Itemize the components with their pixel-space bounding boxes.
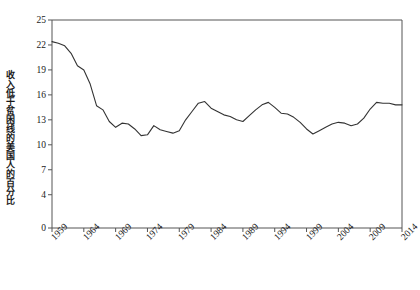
poverty-rate-series-line — [52, 42, 402, 136]
y-tick-label: 0 — [22, 223, 46, 233]
y-tick-label: 7 — [22, 165, 46, 175]
y-tick-label: 16 — [22, 90, 46, 100]
axes-group — [52, 20, 402, 228]
poverty-rate-line-chart: 收入低于贫困线的美国人的百分比 047101316192225 19591964… — [0, 0, 420, 290]
y-tick-label: 22 — [22, 40, 46, 50]
y-tick-label: 25 — [22, 15, 46, 25]
y-tick-label: 13 — [22, 115, 46, 125]
y-tick-label: 10 — [22, 140, 46, 150]
chart-plot-area — [0, 0, 420, 290]
y-tick-label: 19 — [22, 65, 46, 75]
y-tick-label: 4 — [22, 190, 46, 200]
tick-marks-group — [48, 20, 402, 232]
